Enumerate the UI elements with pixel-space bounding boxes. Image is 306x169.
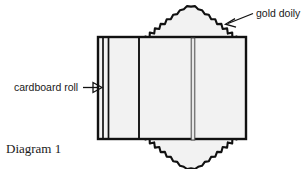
gold-doily-label: gold doily [256,7,301,19]
gold-doily-leader [226,14,254,28]
doily-center-bar [191,38,195,140]
doily-center-bar-shape [191,38,195,140]
diagram-caption: Diagram 1 [6,141,61,156]
cardboard-roll-body [98,37,246,139]
cardboard-roll-label: cardboard roll [14,81,78,93]
diagram-figure: cardboard roll gold doily Diagram 1 [0,0,306,169]
diagram-page: cardboard roll gold doily Diagram 1 [0,0,306,169]
cardboard-roll [98,37,246,139]
gold-doily-leader-line [228,14,253,24]
